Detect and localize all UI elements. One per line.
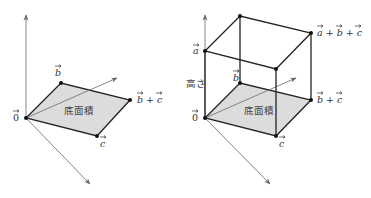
origin-point [24, 116, 28, 120]
b-label: b [55, 67, 61, 78]
b-plus-c-label: b + c [137, 94, 163, 105]
base-area-label: 底面積 [64, 105, 94, 116]
b-point [59, 81, 63, 85]
b-label: b [233, 72, 239, 83]
a-plus-b-point [238, 14, 242, 18]
a-plus-b-plus-c-label: a + b + c [317, 27, 363, 38]
c-point [274, 134, 278, 138]
a-label: a [193, 45, 199, 56]
height-label: 高さ [186, 78, 206, 89]
c-label: c [100, 138, 106, 149]
c-point [95, 134, 99, 138]
a-point [203, 49, 207, 53]
b-plus-c-point [309, 98, 313, 102]
base-area-label: 底面積 [244, 105, 274, 116]
b-plus-c-point [128, 98, 132, 102]
b-plus-c-label: b + c [317, 94, 343, 105]
origin-point [203, 116, 207, 120]
right-parallelepiped-diagram: 0 a b c b + c a + b + c 高さ 底面積 [186, 14, 363, 184]
c-label: c [279, 138, 285, 149]
origin-label: 0 [13, 112, 19, 123]
origin-label: 0 [192, 112, 198, 123]
top-face [205, 16, 311, 69]
a-plus-c-point [274, 67, 278, 71]
left-parallelogram-diagram: 0 b b + c c 底面積 [13, 15, 163, 184]
vector-diagram: 0 b b + c c 底面積 0 [0, 0, 371, 198]
a-plus-b-plus-c-point [309, 31, 313, 35]
